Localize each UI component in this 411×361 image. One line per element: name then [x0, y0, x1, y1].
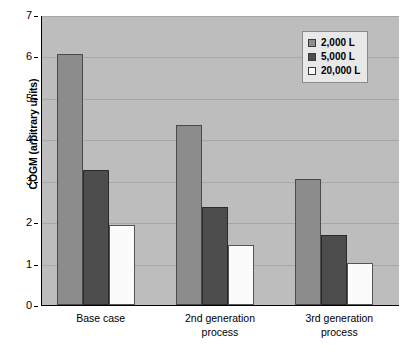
legend-label: 5,000 L: [321, 52, 355, 62]
y-axis-tick-mark: [34, 140, 38, 141]
legend-label: 20,000 L: [321, 66, 360, 76]
bar: [109, 225, 135, 305]
bar: [321, 235, 347, 305]
y-axis-tick-labels: 76543210: [0, 16, 38, 306]
bar: [228, 245, 254, 305]
y-axis-tick-label: 3: [2, 176, 32, 187]
y-axis-tick-label: 7: [2, 10, 32, 21]
x-axis-category-labels: Base case2nd generationprocess3rd genera…: [41, 312, 399, 357]
bar: [295, 179, 321, 305]
bar: [57, 54, 83, 305]
y-axis-tick-mark: [34, 57, 38, 58]
bar: [176, 125, 202, 305]
y-axis-tick-mark: [34, 99, 38, 100]
y-axis-tick-mark: [34, 16, 38, 17]
legend-swatch-icon: [308, 39, 316, 47]
y-axis-tick-label: 0: [2, 300, 32, 311]
legend-swatch-icon: [308, 67, 316, 75]
y-axis-tick-label: 4: [2, 134, 32, 145]
y-axis-tick-label: 1: [2, 259, 32, 270]
x-axis-category-label: Base case: [41, 312, 160, 326]
bar: [202, 207, 228, 305]
bar-chart: COGM (arbitrary units) 76543210 2,000 L5…: [0, 0, 411, 361]
legend: 2,000 L5,000 L20,000 L: [302, 31, 368, 83]
legend-item: 2,000 L: [308, 36, 360, 50]
bar: [347, 263, 373, 305]
legend-item: 5,000 L: [308, 50, 360, 64]
y-axis-tick-mark: [34, 306, 38, 307]
y-axis-tick-label: 6: [2, 51, 32, 62]
y-axis-tick-mark: [34, 223, 38, 224]
legend-swatch-icon: [308, 53, 316, 61]
y-axis-tick-label: 5: [2, 93, 32, 104]
legend-label: 2,000 L: [321, 38, 355, 48]
y-axis-tick-mark: [34, 182, 38, 183]
y-axis-tick-mark: [34, 265, 38, 266]
legend-item: 20,000 L: [308, 64, 360, 78]
y-axis-tick-label: 2: [2, 217, 32, 228]
x-axis-category-label: 3rd generationprocess: [280, 312, 399, 339]
bar: [83, 170, 109, 305]
x-axis-category-label: 2nd generationprocess: [160, 312, 279, 339]
